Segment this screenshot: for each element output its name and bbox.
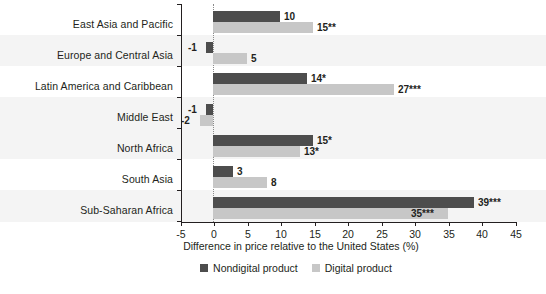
legend-swatch-icon (200, 264, 208, 272)
bar-value-label: 39*** (478, 197, 501, 208)
legend-label-digital: Digital product (325, 262, 392, 274)
bar-digital (200, 115, 213, 126)
y-label-1: Europe and Central Asia (0, 49, 173, 61)
bar-nondigital (213, 135, 313, 146)
bar-value-label: 3 (237, 166, 243, 177)
y-label-2: Latin America and Caribbean (0, 80, 173, 92)
x-axis-title-text: Difference in price relative to the Unit… (183, 240, 419, 252)
x-tick-label: 20 (342, 228, 354, 240)
plot-area: 10 15** -1 5 14* 27*** -1 -2 15* 13* 3 8… (181, 4, 515, 222)
bar-digital (213, 22, 313, 33)
x-tick-label: 40 (476, 228, 488, 240)
chart-legend: Nondigital product Digital product (0, 262, 546, 274)
bar-digital (213, 53, 247, 64)
legend-swatch-icon (312, 264, 320, 272)
bar-value-label: 5 (251, 53, 257, 64)
bar-value-label: 15** (317, 22, 336, 33)
x-tick-label: -5 (176, 228, 185, 240)
x-tick-label: 10 (275, 228, 287, 240)
legend-label-nondigital: Nondigital product (213, 262, 298, 274)
bar-nondigital (213, 73, 307, 84)
bar-digital (213, 177, 267, 188)
bar-digital (213, 146, 300, 157)
x-tick-label: 25 (376, 228, 388, 240)
x-tick-label: 5 (245, 228, 251, 240)
x-axis-tick (214, 222, 215, 226)
x-axis-tick (382, 222, 383, 226)
bar-nondigital (213, 197, 474, 208)
bar-digital (213, 84, 394, 95)
x-tick-label: 0 (211, 228, 217, 240)
x-axis-tick (482, 222, 483, 226)
bar-value-label: 13* (304, 146, 319, 157)
legend-item-nondigital: Nondigital product (200, 262, 298, 274)
x-tick-label: 45 (510, 228, 522, 240)
bar-value-label: 8 (271, 177, 277, 188)
bar-value-label: 15* (317, 135, 332, 146)
y-label-0: East Asia and Pacific (0, 18, 173, 30)
bar-nondigital (213, 166, 233, 177)
x-axis-tick (281, 222, 282, 226)
bar-value-label: 35*** (411, 208, 434, 219)
y-axis-labels: East Asia and Pacific Europe and Central… (0, 4, 173, 222)
x-axis-tick (181, 222, 182, 226)
y-label-3: Middle East (0, 111, 173, 123)
x-axis-title: Difference in price relative to the Unit… (0, 240, 546, 252)
bar-value-label: 10 (284, 11, 295, 22)
x-axis-tick (248, 222, 249, 226)
y-label-5: South Asia (0, 173, 173, 185)
x-tick-label: 30 (409, 228, 421, 240)
y-label-6: Sub-Saharan Africa (0, 204, 173, 216)
bar-value-label: 14* (311, 73, 326, 84)
bar-value-label: -1 (188, 104, 197, 115)
bar-value-label: 27*** (398, 84, 421, 95)
x-axis-tick (415, 222, 416, 226)
bar-nondigital (206, 104, 213, 115)
bar-value-label: -1 (188, 42, 197, 53)
x-tick-label: 35 (443, 228, 455, 240)
bar-nondigital (213, 11, 280, 22)
chart-figure: East Asia and Pacific Europe and Central… (0, 0, 546, 294)
x-axis-tick (348, 222, 349, 226)
x-axis-spine: -5 0 5 10 15 20 25 30 35 40 45 (181, 222, 516, 223)
x-tick-label: 15 (309, 228, 321, 240)
bar-value-label: -2 (181, 115, 190, 126)
legend-item-digital: Digital product (312, 262, 392, 274)
x-axis-tick (315, 222, 316, 226)
x-axis-tick (516, 222, 517, 226)
x-axis-tick (449, 222, 450, 226)
bar-nondigital (206, 42, 213, 53)
y-label-4: North Africa (0, 142, 173, 154)
